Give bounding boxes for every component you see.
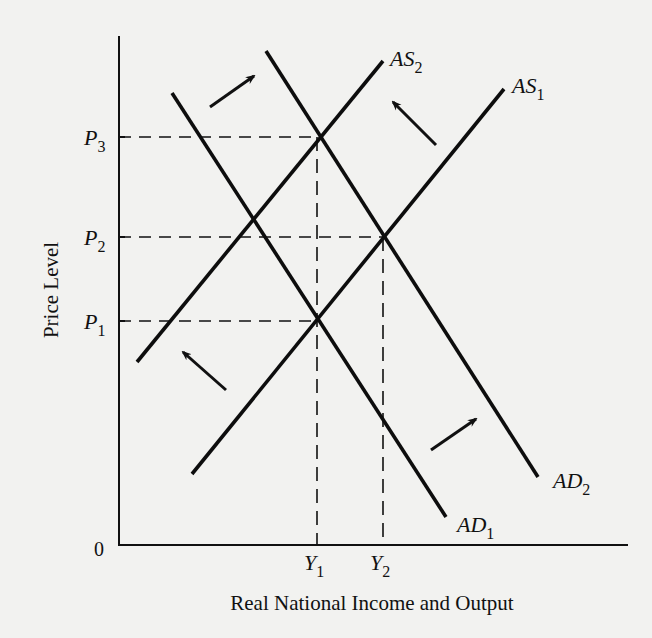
shift-arrow-icon: [183, 352, 226, 390]
origin-label: 0: [94, 538, 104, 560]
dashed-guide-lines: [119, 137, 383, 545]
shift-arrow-icon: [431, 419, 476, 450]
labels: P1P2P3Y1Y2AS1AS2AD1AD20Real National Inc…: [39, 46, 590, 615]
y-tick-label-p1: P1: [83, 309, 105, 339]
curve-as2: [137, 61, 383, 362]
y-axis-title: Price Level: [39, 242, 63, 338]
curve-label-as1: AS1: [510, 73, 544, 103]
shift-arrow-icon: [210, 76, 254, 107]
x-axis-title: Real National Income and Output: [230, 591, 514, 615]
x-tick-label-y1: Y1: [304, 550, 324, 580]
x-tick-label-y2: Y2: [370, 550, 390, 580]
shift-arrows: [183, 76, 476, 450]
curve-label-as2: AS2: [388, 46, 422, 76]
curves: [137, 51, 538, 517]
curve-ad2: [266, 51, 538, 477]
y-tick-label-p3: P3: [83, 125, 105, 155]
ad-as-diagram: P1P2P3Y1Y2AS1AS2AD1AD20Real National Inc…: [0, 0, 652, 638]
shift-arrow-icon: [393, 102, 436, 145]
plot-area: P1P2P3Y1Y2AS1AS2AD1AD20Real National Inc…: [0, 0, 652, 638]
curve-ad1: [172, 93, 446, 517]
y-tick-label-p2: P2: [83, 225, 105, 255]
curve-label-ad1: AD1: [455, 512, 494, 542]
curve-as1: [192, 89, 504, 474]
curve-label-ad2: AD2: [551, 468, 590, 498]
